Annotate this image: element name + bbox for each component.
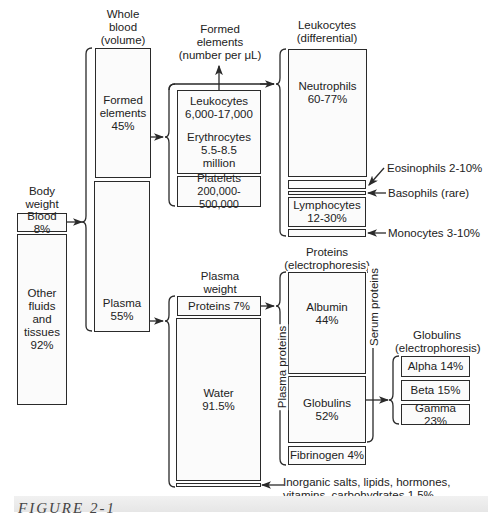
box-line: Fibrinogen 4% bbox=[290, 449, 364, 462]
heading-line: weight bbox=[180, 283, 260, 296]
heading-line: Leukocytes bbox=[280, 19, 374, 32]
monocytes-box bbox=[288, 229, 366, 237]
eosinophils-box bbox=[288, 180, 366, 189]
basophils-label: Basophils (rare) bbox=[388, 187, 469, 200]
box-line: 92% bbox=[30, 339, 53, 352]
lymphocytes-box: Lymphocytes 12-30% bbox=[288, 197, 366, 227]
box-line: and bbox=[32, 313, 51, 326]
serum-proteins-label: Serum proteins bbox=[368, 266, 380, 348]
plasma-proteins-label: Plasma proteins bbox=[276, 324, 288, 410]
heading-line: blood bbox=[92, 21, 154, 34]
heading-line: Globulins bbox=[395, 329, 479, 342]
box-line: Platelets bbox=[197, 172, 241, 185]
heading-line: elements bbox=[170, 36, 270, 49]
proteins-7-box: Proteins 7% bbox=[177, 296, 261, 316]
box-line: 200,000-500,000 bbox=[178, 185, 260, 211]
box-line: 12-30% bbox=[307, 212, 347, 225]
box-line: 60-77% bbox=[308, 93, 348, 106]
heading-line: Whole bbox=[92, 8, 154, 21]
body-weight-heading: Body weight bbox=[10, 185, 74, 211]
box-line: Plasma bbox=[103, 297, 141, 310]
alpha-box: Alpha 14% bbox=[401, 356, 470, 377]
blood-8-box: Blood 8% bbox=[17, 213, 67, 232]
box-line: 44% bbox=[315, 314, 338, 327]
box-line: Globulins bbox=[303, 397, 351, 410]
proteins-heading: Proteins (electrophoresis) bbox=[280, 246, 374, 272]
blood-label: Blood 8% bbox=[18, 210, 66, 236]
box-line: 45% bbox=[111, 120, 134, 133]
formed-elements-heading: Formed elements (number per μL) bbox=[170, 23, 270, 62]
box-line: Lymphocytes bbox=[293, 199, 360, 212]
heading-line: Body bbox=[10, 185, 74, 198]
platelets-box: Platelets 200,000-500,000 bbox=[177, 176, 261, 207]
box-line: elements bbox=[100, 107, 147, 120]
albumin-box: Albumin 44% bbox=[288, 272, 366, 374]
whole-blood-heading: Whole blood (volume) bbox=[92, 8, 154, 47]
box-line: Gamma 23% bbox=[402, 402, 469, 428]
box-line: fluids bbox=[29, 300, 56, 313]
box-line: Neutrophils bbox=[298, 80, 356, 93]
heading-line: (differential) bbox=[280, 32, 374, 45]
fibrinogen-box: Fibrinogen 4% bbox=[288, 446, 366, 465]
box-line: Other bbox=[28, 287, 57, 300]
beta-box: Beta 15% bbox=[401, 380, 470, 401]
leuko-erythro-box: Leukocytes 6,000-17,000 Erythrocytes 5.5… bbox=[177, 90, 261, 174]
box-line: Alpha 14% bbox=[408, 360, 464, 373]
other-solutes-box bbox=[176, 483, 261, 487]
figure-caption: FIGURE 2-1 bbox=[18, 500, 116, 517]
other-fluids-box: Other fluids and tissues 92% bbox=[17, 234, 67, 405]
box-line: Albumin bbox=[306, 301, 348, 314]
heading-line: Proteins bbox=[280, 246, 374, 259]
eosinophils-label: Eosinophils 2-10% bbox=[387, 162, 482, 175]
box-line: Erythrocytes bbox=[187, 131, 251, 144]
box-line: tissues bbox=[24, 326, 60, 339]
box-line: 52% bbox=[315, 410, 338, 423]
water-box: Water 91.5% bbox=[176, 318, 261, 481]
plasma-weight-heading: Plasma weight bbox=[180, 270, 260, 296]
box-line: 5.5-8.5 bbox=[201, 144, 237, 157]
heading-line: (electrophoresis) bbox=[395, 342, 479, 355]
monocytes-label: Monocytes 3-10% bbox=[388, 227, 480, 240]
note-line: Inorganic salts, lipids, hormones, bbox=[283, 476, 450, 489]
box-line: Proteins 7% bbox=[188, 300, 250, 313]
box-line: 6,000-17,000 bbox=[185, 108, 253, 121]
neutrophils-box: Neutrophils 60-77% bbox=[288, 49, 367, 177]
box-line: million bbox=[203, 157, 236, 170]
heading-line: (electrophoresis) bbox=[280, 259, 374, 272]
basophils-box bbox=[288, 191, 366, 195]
box-line: Leukocytes bbox=[190, 95, 248, 108]
box-line: 55% bbox=[110, 310, 133, 323]
heading-line: (volume) bbox=[92, 34, 154, 47]
heading-line: Plasma bbox=[180, 270, 260, 283]
globulins-heading: Globulins (electrophoresis) bbox=[395, 329, 479, 355]
plasma-box: Plasma 55% bbox=[94, 181, 150, 332]
box-line: Water bbox=[203, 387, 233, 400]
leukocytes-differential-heading: Leukocytes (differential) bbox=[280, 19, 374, 45]
box-line: Beta 15% bbox=[411, 384, 461, 397]
heading-line: (number per μL) bbox=[170, 49, 270, 62]
box-line: Formed bbox=[103, 94, 143, 107]
heading-line: Formed bbox=[170, 23, 270, 36]
gamma-box: Gamma 23% bbox=[401, 404, 470, 425]
globulins-box: Globulins 52% bbox=[288, 376, 366, 443]
box-line: 91.5% bbox=[202, 400, 235, 413]
formed-elements-box: Formed elements 45% bbox=[95, 48, 151, 178]
